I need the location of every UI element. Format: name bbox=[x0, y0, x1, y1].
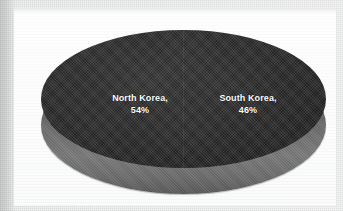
pie-chart-screenshot: North Korea, 54% South Korea, 46% bbox=[0, 0, 343, 211]
slice-divider-upper bbox=[183, 30, 184, 99]
slice-label-south-korea: South Korea, 46% bbox=[193, 92, 303, 116]
slice-label-south-korea-value: 46% bbox=[193, 104, 303, 116]
slice-label-north-korea-value: 54% bbox=[85, 104, 195, 116]
slice-label-south-korea-name: South Korea, bbox=[193, 92, 303, 104]
slice-label-north-korea-name: North Korea, bbox=[85, 92, 195, 104]
chart-plot-area: North Korea, 54% South Korea, 46% bbox=[14, 8, 336, 206]
pie-chart: North Korea, 54% South Korea, 46% bbox=[41, 30, 326, 194]
scan-band bbox=[14, 8, 336, 13]
slice-label-north-korea: North Korea, 54% bbox=[85, 92, 195, 116]
